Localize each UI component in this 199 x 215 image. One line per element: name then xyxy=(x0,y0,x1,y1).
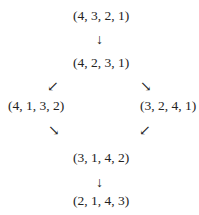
node-4321: (4, 3, 2, 1) xyxy=(73,8,129,24)
arrow-down-icon: ↓ xyxy=(96,176,103,190)
arrow-down-icon: ↓ xyxy=(96,33,103,47)
node-4231: (4, 2, 3, 1) xyxy=(73,55,129,71)
arrow-down-left-icon: ↙ xyxy=(139,124,151,138)
arrow-down-right-icon: ↘ xyxy=(48,124,60,138)
node-2143: (2, 1, 4, 3) xyxy=(73,193,129,209)
node-3241: (3, 2, 4, 1) xyxy=(140,98,196,114)
arrow-down-right-icon: ↘ xyxy=(140,80,152,94)
arrow-down-left-icon: ↙ xyxy=(47,80,59,94)
node-4132: (4, 1, 3, 2) xyxy=(8,98,64,114)
node-3142: (3, 1, 4, 2) xyxy=(73,150,129,166)
